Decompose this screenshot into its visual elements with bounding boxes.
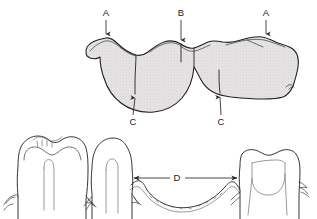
label-b: B — [178, 7, 185, 18]
anatomical-figure: A B A C C — [0, 0, 317, 219]
label-d: D — [173, 172, 180, 183]
label-c-right: C — [217, 116, 224, 127]
label-a-right: A — [263, 7, 270, 18]
figure-canvas: A B A C C — [0, 0, 317, 219]
label-a-left: A — [103, 7, 110, 18]
label-c-left: C — [129, 116, 136, 127]
